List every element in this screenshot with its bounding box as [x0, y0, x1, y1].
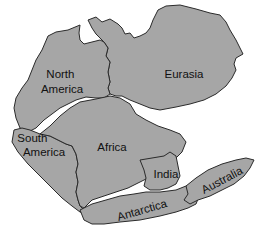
label-india: India [154, 168, 180, 180]
label-eurasia: Eurasia [165, 68, 205, 80]
pangaea-map: North America Eurasia South America Afri… [0, 0, 260, 234]
continent-eurasia [88, 5, 243, 110]
label-africa: Africa [97, 141, 127, 153]
